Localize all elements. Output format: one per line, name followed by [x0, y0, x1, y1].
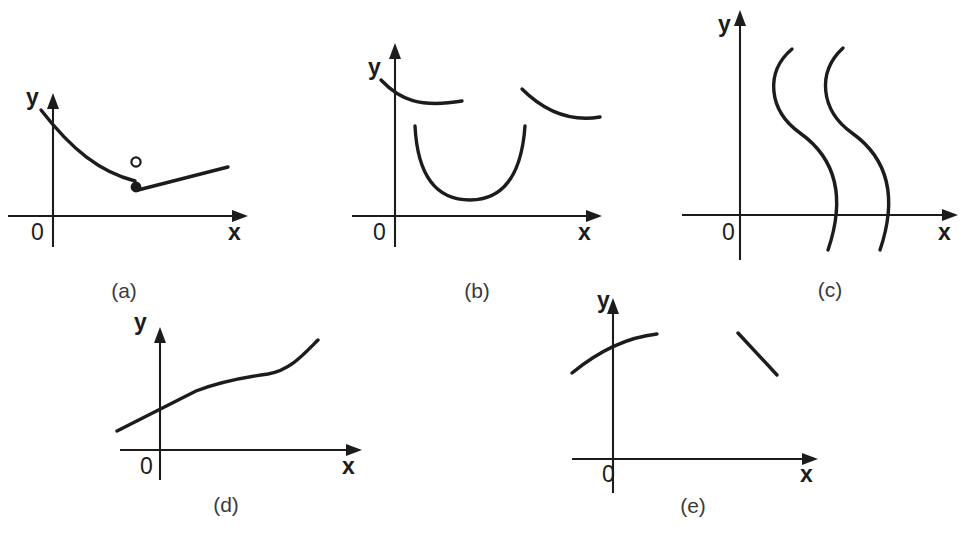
x-axis-label: x [342, 453, 355, 479]
figure-container: xy0(a)xy0(b)xy0(c)xy0(d)xy0(e) [0, 0, 970, 534]
marker-filled-dot-endpoint [131, 182, 140, 191]
x-axis-label: x [578, 219, 591, 245]
origin-label: 0 [373, 219, 386, 245]
panel-c: xy0(c) [682, 10, 958, 301]
panel-caption-c: (c) [818, 278, 843, 301]
curve-left-concave-arc [572, 334, 657, 373]
marker-open-circle-endpoint [131, 157, 140, 166]
figure-canvas: xy0(a)xy0(b)xy0(c)xy0(d)xy0(e) [0, 0, 970, 534]
panel-a: xy0(a) [8, 84, 248, 302]
origin-label: 0 [722, 219, 735, 245]
curve-upper-right-branch [522, 89, 600, 118]
panel-e: xy0(e) [572, 287, 818, 517]
origin-label: 0 [140, 453, 153, 479]
panel-caption-e: (e) [680, 494, 706, 517]
panel-d: xy0(d) [117, 309, 362, 516]
y-axis-label: y [597, 287, 610, 313]
panel-caption-a: (a) [111, 279, 137, 302]
panel-caption-d: (d) [213, 493, 239, 516]
y-axis-arrowhead [154, 327, 166, 343]
y-axis-arrowhead [389, 43, 401, 59]
y-axis-label: y [134, 309, 147, 335]
curve-decreasing-branch [41, 110, 135, 181]
x-axis-label: x [800, 461, 813, 487]
curve-lower-u-branch [415, 126, 525, 200]
origin-label: 0 [31, 219, 44, 245]
origin-label: 0 [602, 461, 615, 487]
panel-b: xy0(b) [352, 43, 602, 302]
y-axis-arrowhead [734, 10, 746, 26]
curve-piecewise-increasing-curve [117, 340, 318, 431]
y-axis-arrowhead [47, 93, 59, 109]
y-axis-label: y [26, 84, 39, 110]
curve-right-descending-segment [738, 333, 777, 375]
curve-upper-left-branch [381, 80, 462, 103]
x-axis-label: x [228, 219, 241, 245]
curve-rising-segment [138, 167, 228, 190]
panel-caption-b: (b) [464, 279, 490, 302]
y-axis-label: y [718, 11, 731, 37]
y-axis-label: y [368, 54, 381, 80]
x-axis-label: x [938, 219, 951, 245]
